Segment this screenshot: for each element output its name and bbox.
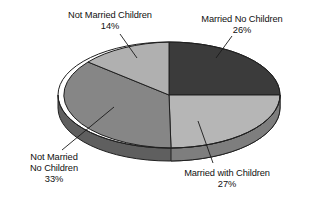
label-not-married-no-children-text-line1: Not Married: [30, 152, 77, 162]
label-married-with-children: Married with Children 27%: [160, 168, 294, 190]
slice-married-no-children: [169, 42, 280, 95]
label-married-no-children-percent: 26%: [180, 25, 304, 36]
label-not-married-no-children-percent: 33%: [2, 174, 106, 185]
slice-married-with-children: [169, 95, 280, 148]
pie-chart: Not Married Children 14% Married No Chil…: [0, 0, 309, 199]
label-not-married-children-text: Not Married Children: [68, 10, 152, 20]
label-not-married-children-percent: 14%: [48, 21, 172, 32]
label-married-with-children-text: Married with Children: [184, 168, 270, 178]
label-not-married-no-children-text-line2: No Children: [2, 163, 106, 174]
label-married-no-children-text: Married No Children: [201, 14, 282, 24]
label-not-married-no-children: Not Married No Children 33%: [2, 152, 106, 186]
label-married-with-children-percent: 27%: [160, 179, 294, 190]
label-married-no-children: Married No Children 26%: [180, 14, 304, 36]
label-not-married-children: Not Married Children 14%: [48, 10, 172, 32]
